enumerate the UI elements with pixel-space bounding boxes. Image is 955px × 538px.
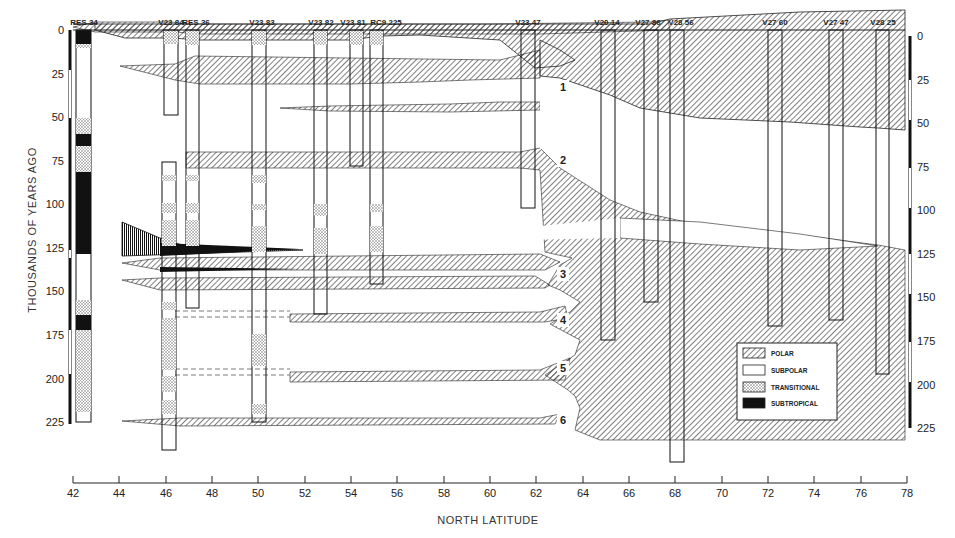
x-tick: 54: [345, 487, 357, 499]
x-tick: 42: [67, 487, 79, 499]
core-label: V28 25: [870, 18, 896, 27]
core-label: V23 82: [308, 18, 334, 27]
x-tick: 50: [252, 487, 264, 499]
y-tick-left: 100: [46, 198, 64, 210]
core-label: V23 81: [340, 18, 366, 27]
x-tick: 56: [391, 487, 403, 499]
core-label: V27 60: [762, 18, 788, 27]
legend: POLAR SUBPOLAR TRANSITIONAL SUBTROPICAL: [737, 343, 837, 420]
y-tick-left: 75: [52, 155, 64, 167]
x-tick: 66: [623, 487, 635, 499]
core-label: V23 84: [158, 18, 184, 27]
legend-swatch-transitional: [743, 382, 765, 392]
latitude-time-diagram: RES 34 V23 84 RES 36 V23 83 V23 82 V23 8…: [0, 0, 955, 538]
y-axis-left: 0 25 50 75 100 125 150 175 200 225 THOUS…: [26, 24, 70, 428]
dashed-correlation-lines: [175, 311, 290, 375]
y-tick-right: 175: [917, 335, 935, 347]
y-tick-left: 125: [46, 242, 64, 254]
y-tick-left: 25: [52, 68, 64, 80]
y-tick-right: 25: [917, 74, 929, 86]
core-res34[interactable]: [76, 30, 91, 422]
y-tick-left: 50: [52, 111, 64, 123]
y-tick-right: 0: [917, 30, 923, 42]
stage-label: 3: [560, 268, 566, 280]
polar-tongue-23ka: [120, 50, 540, 84]
stage-label: 6: [560, 414, 566, 426]
y-tick-left: 200: [46, 373, 64, 385]
polar-band-stage-5: [290, 358, 570, 382]
x-tick: 76: [855, 487, 867, 499]
x-axis: 42 44 46 48 50 52 54 56 58 60 62 64 66 6…: [67, 476, 913, 526]
x-tick: 70: [716, 487, 728, 499]
core-v23-84[interactable]: [162, 30, 178, 450]
x-tick: 48: [206, 487, 218, 499]
legend-swatch-subtropical: [743, 398, 765, 408]
y-tick-right: 100: [917, 204, 935, 216]
legend-label-subpolar: SUBPOLAR: [771, 367, 808, 374]
core-label: RES 36: [182, 18, 210, 27]
stage-label: 2: [560, 154, 566, 166]
y-tick-left: 150: [46, 285, 64, 297]
x-tick: 64: [577, 487, 589, 499]
core-label: V23 47: [515, 18, 541, 27]
x-axis-title: NORTH LATITUDE: [437, 514, 538, 526]
y-tick-left: 175: [46, 329, 64, 341]
legend-swatch-polar: [743, 348, 765, 358]
core-label: V27 47: [823, 18, 849, 27]
legend-label-polar: POLAR: [771, 350, 794, 357]
x-tick: 74: [808, 487, 820, 499]
polar-band-stage-6: [122, 414, 560, 426]
x-tick: 72: [762, 487, 774, 499]
core-v23-83[interactable]: [252, 30, 266, 422]
x-tick: 78: [901, 487, 913, 499]
y-axis-title: THOUSANDS OF YEARS AGO: [26, 147, 38, 312]
polar-wedge-45ka: [280, 102, 540, 112]
core-label: V28 56: [668, 18, 694, 27]
stage-label: 4: [560, 314, 567, 326]
x-tick: 68: [669, 487, 681, 499]
y-tick-left: 225: [46, 416, 64, 428]
y-tick-right: 150: [917, 291, 935, 303]
core-label: RES 34: [70, 18, 98, 27]
y-tick-left: 0: [58, 24, 64, 36]
core-label: V20 14: [594, 18, 620, 27]
legend-label-subtropical: SUBTROPICAL: [771, 400, 818, 407]
y-tick-right: 50: [917, 117, 929, 129]
x-tick: 46: [160, 487, 172, 499]
x-tick: 52: [299, 487, 311, 499]
core-label: V27 86: [635, 18, 661, 27]
core-label: RC9 225: [370, 18, 402, 27]
x-tick: 58: [438, 487, 450, 499]
polar-band-stage-4: [290, 306, 568, 322]
legend-swatch-subpolar: [743, 365, 765, 375]
legend-label-transitional: TRANSITIONAL: [771, 384, 819, 391]
y-tick-right: 75: [917, 161, 929, 173]
x-tick: 62: [530, 487, 542, 499]
stage-label: 5: [560, 362, 566, 374]
y-axis-right: 0 25 50 75 100 125 150 175 200 225: [910, 30, 935, 434]
y-tick-right: 200: [917, 379, 935, 391]
stage-label: 1: [560, 81, 566, 93]
y-tick-right: 225: [917, 422, 935, 434]
core-v23-81[interactable]: [350, 30, 363, 166]
x-tick: 44: [113, 487, 125, 499]
y-tick-right: 125: [917, 248, 935, 260]
x-tick: 60: [484, 487, 496, 499]
core-label: V23 83: [249, 18, 275, 27]
